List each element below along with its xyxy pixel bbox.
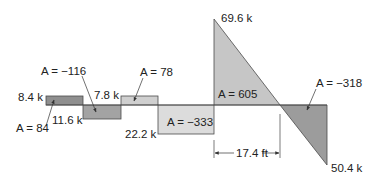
value-label-11-6k: 11.6 k bbox=[52, 114, 83, 126]
area-label-a605: A = 605 bbox=[218, 88, 257, 100]
value-label-8-4k: 8.4 k bbox=[18, 91, 43, 103]
segment-1-rect bbox=[46, 96, 83, 105]
area-label-a-318: A = −318 bbox=[316, 77, 362, 89]
area-label-a-116: A = −116 bbox=[41, 65, 86, 77]
area-label-a84: A = 84 bbox=[16, 122, 50, 134]
dimension-label: 17.4 ft bbox=[236, 147, 269, 159]
segment-2-rect bbox=[83, 105, 121, 119]
value-label-7-8k: 7.8 k bbox=[94, 89, 119, 101]
shear-diagram: 8.4 k 11.6 k 7.8 k 22.2 k 69.6 k 50.4 k … bbox=[0, 0, 380, 183]
segment-3-rect bbox=[121, 96, 158, 105]
segment-6-triangle bbox=[280, 105, 327, 165]
area-label-a78: A = 78 bbox=[140, 66, 173, 78]
value-label-69-6k: 69.6 k bbox=[221, 12, 253, 24]
area-label-a-333: A = −333 bbox=[167, 116, 213, 128]
value-label-50-4k: 50.4 k bbox=[331, 162, 363, 174]
value-label-22-2k: 22.2 k bbox=[125, 128, 157, 140]
